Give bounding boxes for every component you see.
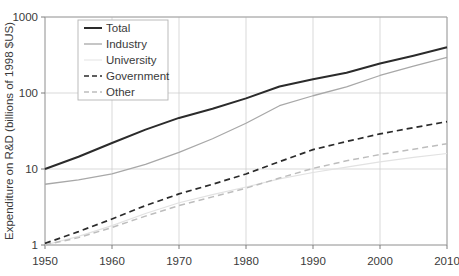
legend-label-university: University [106,54,157,66]
legend-label-other: Other [106,86,135,98]
y-axis-title-text: Expenditure on R&D (billions of 1998 $US… [3,22,15,240]
x-tick-label: 1970 [166,255,192,267]
x-tick-label: 1980 [233,255,259,267]
chart-legend: TotalIndustryUniversityGovernmentOther [78,20,170,100]
y-axis-ticks: 1101001000 [12,11,45,251]
legend-label-total: Total [106,22,130,34]
x-tick-label: 1990 [300,255,326,267]
rd-expenditure-chart: 1101001000 1950196019701980199020002010 … [0,0,459,276]
x-tick-label: 1950 [32,255,58,267]
y-tick-label: 100 [19,87,38,99]
x-axis-ticks: 1950196019701980199020002010 [32,245,459,267]
x-tick-label: 2010 [434,255,459,267]
x-tick-label: 2000 [367,255,393,267]
y-axis-title: Expenditure on R&D (billions of 1998 $US… [3,22,15,240]
legend-label-government: Government [106,70,170,82]
x-tick-label: 1960 [99,255,125,267]
y-tick-label: 1 [32,239,38,251]
y-tick-label: 1000 [12,11,38,23]
y-tick-label: 10 [25,163,38,175]
chart-svg: 1101001000 1950196019701980199020002010 … [0,0,459,276]
legend-label-industry: Industry [106,38,147,50]
